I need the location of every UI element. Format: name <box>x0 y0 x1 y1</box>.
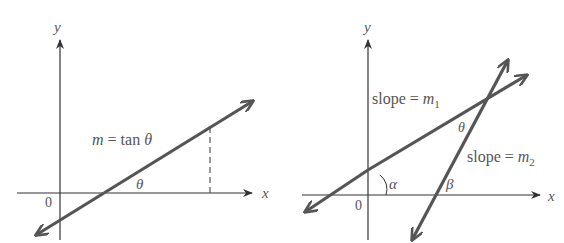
right-panel: y x 0 slope = m1 slope = m2 θ α β <box>302 19 555 240</box>
right-x-axis-label: x <box>547 188 555 204</box>
right-line-2 <box>436 60 508 195</box>
right-y-axis-label: y <box>362 19 371 35</box>
right-line-2-tail <box>412 195 436 240</box>
left-y-axis-label: y <box>52 19 61 35</box>
left-origin-label: 0 <box>45 195 52 210</box>
right-angle-beta-label: β <box>445 176 454 192</box>
right-line-2-label: slope = m2 <box>467 148 535 168</box>
left-angle-theta-label: θ <box>136 176 144 192</box>
figure: y x 0 m = tan θ θ y x 0 slope = m1 slope… <box>0 0 564 243</box>
left-line-label: m = tan θ <box>92 131 152 148</box>
right-angle-theta-label: θ <box>458 120 465 135</box>
left-panel: y x 0 m = tan θ θ <box>17 19 269 240</box>
left-x-axis-label: x <box>261 185 269 201</box>
right-alpha-arc <box>380 175 387 195</box>
right-origin-label: 0 <box>355 198 362 213</box>
right-line-1-label: slope = m1 <box>372 90 440 110</box>
right-angle-alpha-label: α <box>389 176 398 192</box>
